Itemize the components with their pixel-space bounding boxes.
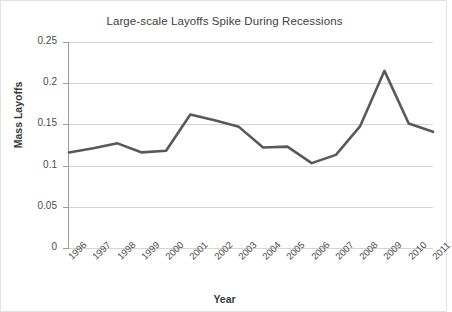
series-line-chart bbox=[69, 42, 433, 248]
y-axis-tick-mark bbox=[63, 124, 68, 125]
y-axis-tick-label: 0.2 bbox=[0, 76, 57, 87]
y-axis-tick-label: 0.05 bbox=[0, 200, 57, 211]
y-axis-tick-mark bbox=[63, 248, 68, 249]
y-axis-tick-label: 0.15 bbox=[0, 117, 57, 128]
y-axis-tick-label: 0.1 bbox=[0, 159, 57, 170]
y-axis-tick-label: 0.25 bbox=[0, 35, 57, 46]
series-line-mass-layoffs bbox=[69, 71, 433, 163]
x-axis-tick-label: 2011 bbox=[430, 240, 452, 262]
y-axis-tick-mark bbox=[63, 207, 68, 208]
y-axis-tick-mark bbox=[63, 83, 68, 84]
y-axis-tick-mark bbox=[63, 42, 68, 43]
x-axis-title: Year bbox=[1, 293, 448, 305]
chart-title: Large-scale Layoffs Spike During Recessi… bbox=[1, 15, 448, 27]
plot-area bbox=[69, 42, 433, 248]
y-axis-tick-label: 0 bbox=[0, 241, 57, 252]
y-axis-tick-mark bbox=[63, 166, 68, 167]
